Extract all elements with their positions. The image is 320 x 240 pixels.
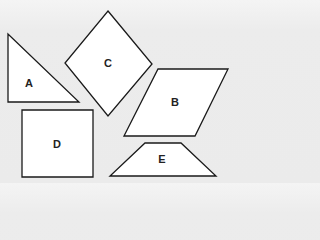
- label-a: A: [25, 77, 33, 89]
- shape-d: D: [22, 110, 93, 177]
- label-e: E: [158, 153, 165, 165]
- label-b: B: [171, 96, 179, 108]
- label-c: C: [104, 57, 112, 69]
- label-d: D: [53, 138, 61, 150]
- shape-e: E: [110, 143, 216, 176]
- shapes-diagram: A C B D E: [0, 0, 231, 183]
